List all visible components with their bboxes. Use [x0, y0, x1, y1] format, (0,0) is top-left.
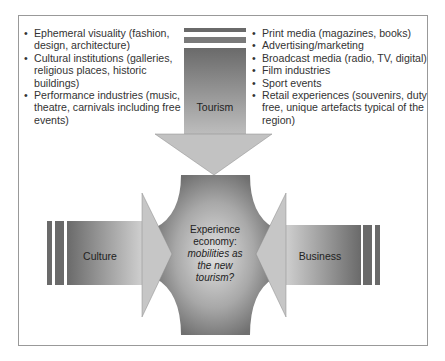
list-item: Retail experiences (souvenirs, duty free… [252, 89, 427, 126]
list-item: Sport events [252, 77, 427, 89]
center-line-5: tourism? [180, 272, 250, 284]
center-line-2: economy: [180, 236, 250, 248]
list-item: Ephemeral visuality (fashion, design, ar… [24, 27, 184, 52]
list-item: Cultural institutions (galleries, religi… [24, 52, 184, 89]
list-item: Advertising/marketing [252, 39, 427, 51]
business-list: Print media (magazines, books) Advertisi… [252, 27, 427, 126]
business-label: Business [290, 250, 350, 262]
center-label: Experience economy: mobilities as the ne… [180, 224, 250, 284]
center-line-4: the new [180, 260, 250, 272]
list-item: Performance industries (music, theatre, … [24, 89, 184, 126]
tourism-label: Tourism [185, 101, 245, 113]
list-item: Broadcast media (radio, TV, digital) [252, 52, 427, 64]
center-line-1: Experience [180, 224, 250, 236]
list-item: Print media (magazines, books) [252, 27, 427, 39]
culture-label: Culture [70, 250, 130, 262]
culture-list: Ephemeral visuality (fashion, design, ar… [24, 27, 184, 126]
center-line-3: mobilities as [180, 248, 250, 260]
list-item: Film industries [252, 64, 427, 76]
